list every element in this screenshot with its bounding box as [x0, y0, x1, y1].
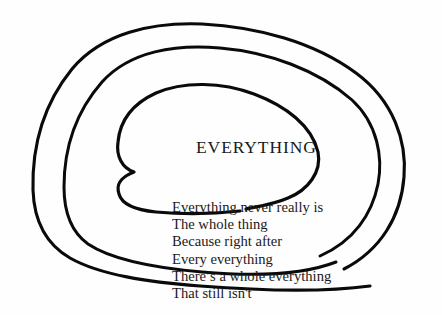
poem-line-5: There’s a whole everything [172, 268, 331, 285]
poem-line-2: The whole thing [172, 216, 331, 233]
poem-text: Everything never really is The whole thi… [172, 199, 331, 302]
page-title: EVERYTHING [196, 137, 317, 158]
poem-line-4: Every everything [172, 251, 331, 268]
poem-line-1: Everything never really is [172, 199, 331, 216]
artwork-canvas: EVERYTHING Everything never really is Th… [0, 0, 442, 315]
poem-line-6: That still isn't [172, 285, 331, 302]
poem-line-3: Because right after [172, 233, 331, 250]
